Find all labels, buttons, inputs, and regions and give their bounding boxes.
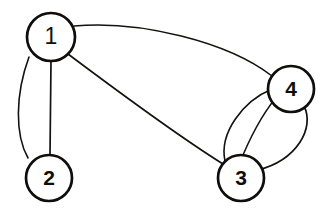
node-4-label: 4 (285, 77, 297, 100)
graph-diagram: 1 2 3 4 (0, 0, 331, 224)
edge-1-3 (68, 54, 223, 164)
edge-1-4-arc (74, 25, 272, 76)
node-1[interactable]: 1 (27, 13, 75, 61)
node-1-label: 1 (45, 23, 58, 49)
node-3-label: 3 (235, 166, 247, 189)
edge-1-2-straight (50, 61, 51, 155)
node-2[interactable]: 2 (26, 155, 72, 201)
edge-3-4-right-arc (258, 106, 307, 170)
edge-1-2-arc (18, 57, 29, 158)
node-2-label: 2 (43, 166, 55, 189)
node-3[interactable]: 3 (218, 155, 264, 201)
edge-3-4-left-arc (224, 89, 272, 161)
node-4[interactable]: 4 (268, 66, 314, 112)
graph-svg-canvas: 1 2 3 4 (0, 0, 331, 224)
node-layer: 1 2 3 4 (26, 13, 314, 201)
